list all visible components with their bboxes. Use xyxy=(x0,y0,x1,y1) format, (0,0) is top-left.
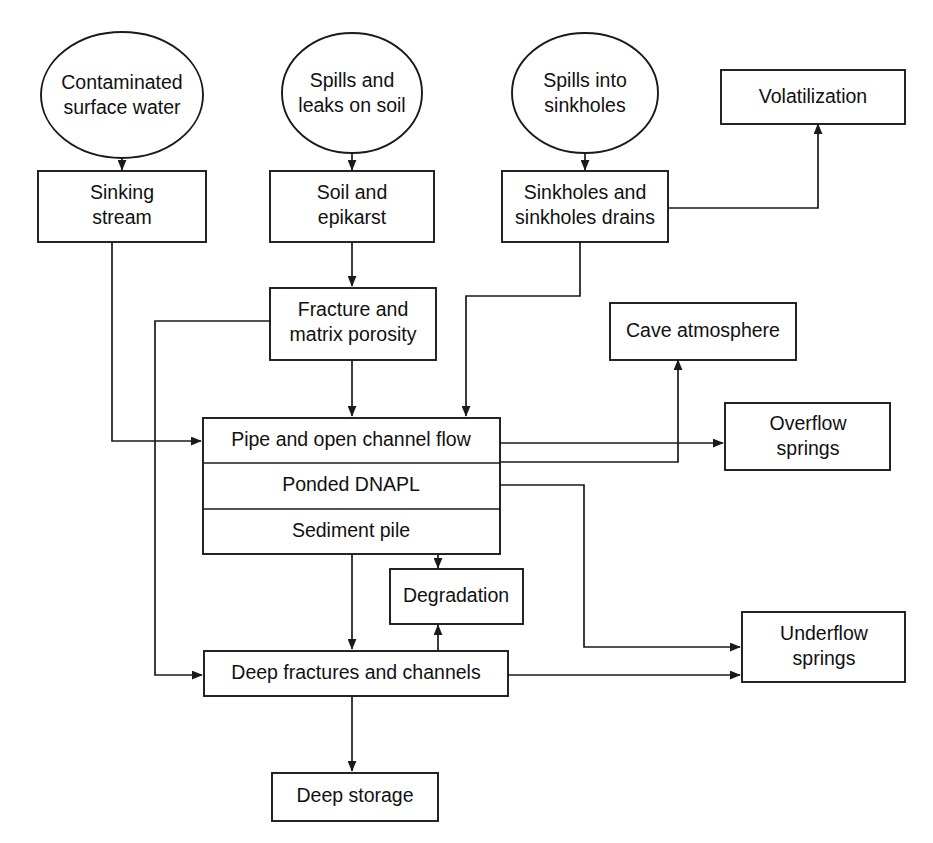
node-contaminated-surface-water[interactable]: Contaminated surface water xyxy=(41,32,203,158)
node-label-sinkholes-drains-line2: sinkholes drains xyxy=(515,206,655,228)
node-stacked-karst-conduit[interactable]: Pipe and open channel flow Ponded DNAPL … xyxy=(203,418,500,554)
node-label-sinking-stream-line2: stream xyxy=(92,206,152,228)
node-cave-atmosphere[interactable]: Cave atmosphere xyxy=(610,303,796,360)
node-degradation[interactable]: Degradation xyxy=(390,569,523,624)
node-soil-and-epikarst[interactable]: Soil and epikarst xyxy=(270,171,434,242)
flowchart-svg: Contaminated surface water Spills and le… xyxy=(0,0,933,843)
node-sinkholes-and-drains[interactable]: Sinkholes and sinkholes drains xyxy=(502,171,668,242)
node-label-fracture-line2: matrix porosity xyxy=(290,323,417,345)
node-spills-and-leaks-on-soil[interactable]: Spills and leaks on soil xyxy=(282,33,422,153)
node-label-soil-epikarst-line2: epikarst xyxy=(318,206,387,228)
node-label-ponded-dnapl: Ponded DNAPL xyxy=(282,473,420,495)
node-volatilization[interactable]: Volatilization xyxy=(721,70,905,124)
flowchart-canvas: Contaminated surface water Spills and le… xyxy=(0,0,933,843)
node-label-underflow-springs-line1: Underflow xyxy=(780,622,869,644)
node-sinking-stream[interactable]: Sinking stream xyxy=(38,171,206,242)
node-label-deep-fractures-channels: Deep fractures and channels xyxy=(231,661,481,683)
edge-sinkholes-to-volatilization xyxy=(668,124,818,208)
node-label-degradation: Degradation xyxy=(403,584,509,606)
node-label-fracture-line1: Fracture and xyxy=(298,298,409,320)
node-label-spills-leaks-soil-line1: Spills and xyxy=(310,69,395,91)
node-label-spills-leaks-soil-line2: leaks on soil xyxy=(298,94,405,116)
node-label-pipe-open-channel-flow: Pipe and open channel flow xyxy=(231,428,472,450)
node-label-sediment-pile: Sediment pile xyxy=(292,519,410,541)
node-label-spills-into-sinkholes-line2: sinkholes xyxy=(544,94,626,116)
node-label-overflow-springs-line2: springs xyxy=(777,437,840,459)
node-label-soil-epikarst-line1: Soil and xyxy=(317,181,387,203)
node-label-contaminated-surface-water-line1: Contaminated xyxy=(61,71,182,93)
node-underflow-springs[interactable]: Underflow springs xyxy=(742,612,905,682)
node-label-overflow-springs-line1: Overflow xyxy=(770,412,848,434)
edge-sinkholes-to-pipe-flow xyxy=(466,242,580,416)
node-label-contaminated-surface-water-line2: surface water xyxy=(63,96,181,118)
edge-sinking-stream-to-pipe-flow xyxy=(112,242,201,441)
node-label-sinking-stream-line1: Sinking xyxy=(90,181,154,203)
node-overflow-springs[interactable]: Overflow springs xyxy=(725,403,890,470)
node-fracture-and-matrix-porosity[interactable]: Fracture and matrix porosity xyxy=(270,288,436,360)
node-label-spills-into-sinkholes-line1: Spills into xyxy=(543,69,627,91)
node-label-sinkholes-drains-line1: Sinkholes and xyxy=(524,181,647,203)
node-spills-into-sinkholes[interactable]: Spills into sinkholes xyxy=(512,33,658,153)
node-label-underflow-springs-line2: springs xyxy=(793,647,856,669)
node-deep-storage[interactable]: Deep storage xyxy=(272,773,438,821)
node-label-deep-storage: Deep storage xyxy=(296,784,413,806)
node-deep-fractures-and-channels[interactable]: Deep fractures and channels xyxy=(204,651,508,696)
node-label-volatilization: Volatilization xyxy=(759,85,867,107)
node-label-cave-atmosphere: Cave atmosphere xyxy=(626,319,780,341)
edge-pipe-flow-to-cave-atmosphere xyxy=(500,360,678,462)
